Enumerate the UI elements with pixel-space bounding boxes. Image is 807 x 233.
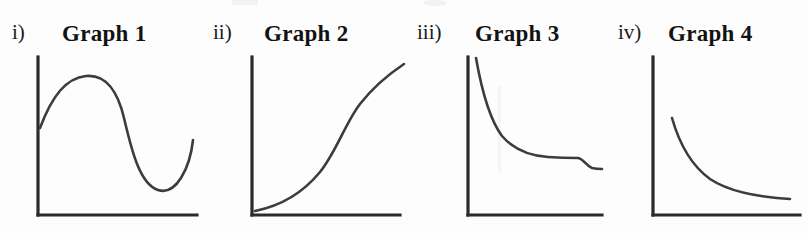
graph-panel-1: i) Graph 1 <box>0 0 207 233</box>
four-graphs-figure: i) Graph 1 ii) Graph 2 iii) Graph 3 iv) … <box>0 0 807 233</box>
plot-area-3 <box>411 0 612 233</box>
data-curve-2 <box>255 64 404 211</box>
plot-area-2 <box>207 0 411 233</box>
data-curve-4 <box>672 118 790 199</box>
graph-panel-4: iv) Graph 4 <box>612 0 807 233</box>
graph-panel-3: iii) Graph 3 <box>411 0 612 233</box>
graph-panel-2: ii) Graph 2 <box>207 0 411 233</box>
plot-area-4 <box>612 0 807 233</box>
data-curve-1 <box>40 76 193 191</box>
data-curve-3 <box>476 58 602 169</box>
plot-area-1 <box>0 0 207 233</box>
